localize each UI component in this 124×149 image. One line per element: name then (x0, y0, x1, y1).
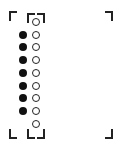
inner-corner-bottom-right-icon (37, 129, 45, 139)
open-circle-icon (32, 31, 40, 39)
filled-dot-icon (19, 43, 27, 51)
open-circle-icon (32, 43, 40, 51)
filled-dot-icon (19, 69, 27, 77)
outer-corner-bottom-right-icon (105, 129, 113, 139)
open-circle-icon (32, 18, 40, 26)
outer-corner-bottom-left-icon (9, 129, 17, 139)
filled-dot-icon (19, 82, 27, 90)
outer-corner-top-right-icon (105, 11, 113, 21)
open-circle-icon (32, 94, 40, 102)
filled-dot-icon (19, 94, 27, 102)
filled-dot-icon (19, 56, 27, 64)
filled-dot-icon (19, 31, 27, 39)
inner-corner-bottom-left-icon (27, 129, 35, 139)
outer-corner-top-left-icon (9, 11, 17, 21)
open-circle-icon (32, 56, 40, 64)
open-circle-icon (32, 69, 40, 77)
open-circle-icon (32, 107, 40, 115)
open-circle-icon (32, 82, 40, 90)
filled-dot-icon (19, 107, 27, 115)
open-circle-icon (32, 120, 40, 128)
